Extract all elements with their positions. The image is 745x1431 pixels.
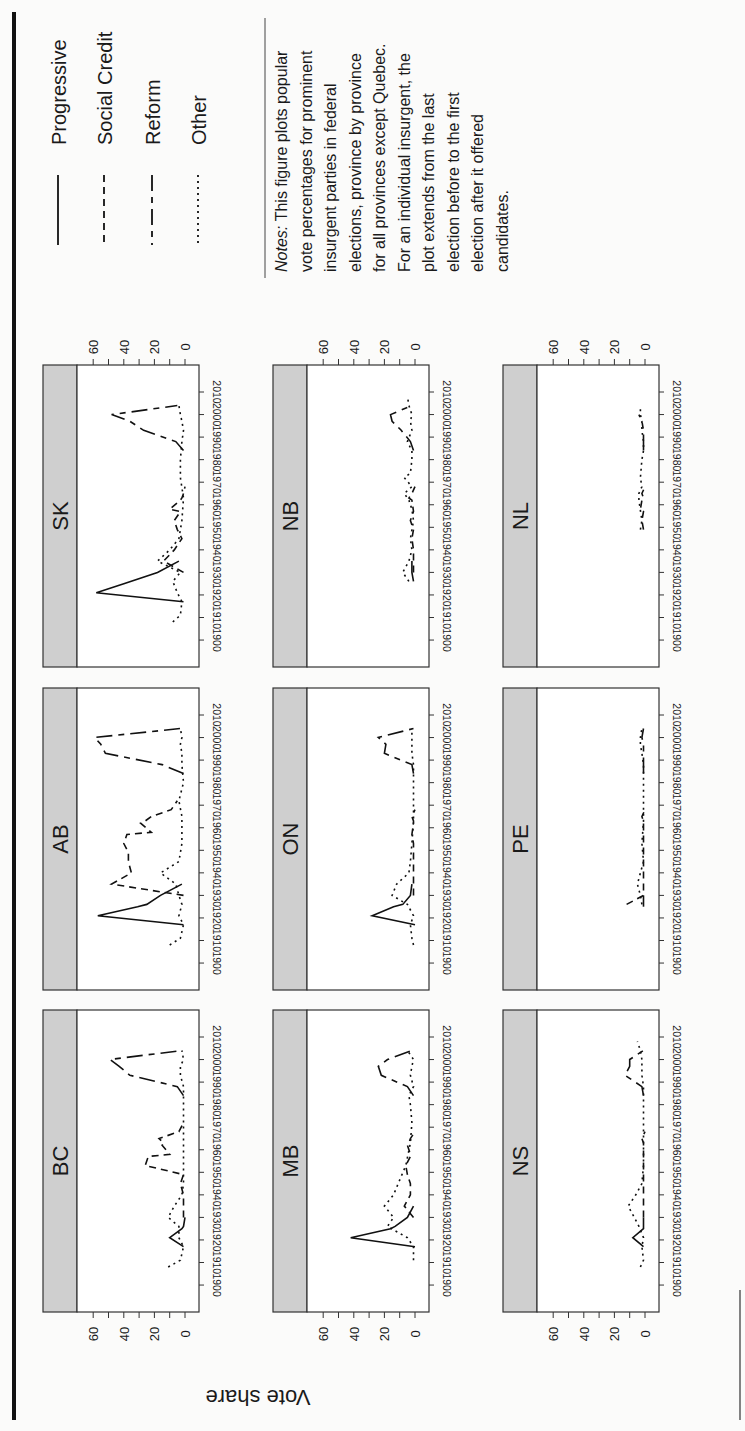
x-tick-label: 1920 [441,906,453,930]
plot-area [307,365,429,667]
x-tick-label: 1960 [211,1138,223,1162]
x-tick-label: 1980 [671,771,683,795]
x-tick-label: 1980 [671,1093,683,1117]
x-tick-label: 1900 [441,628,453,652]
x-tick-label: 1950 [671,1161,683,1185]
x-tick-label: 1990 [441,1070,453,1094]
x-tick-label: 1930 [671,1206,683,1230]
x-tick-label: 1930 [671,561,683,585]
x-tick-label: 1980 [441,771,453,795]
x-tick-label: 1980 [671,448,683,472]
x-tick-label: 1920 [211,1228,223,1252]
notes-line: for all provinces except Quebec. [371,43,388,272]
plot-area [307,1010,429,1312]
x-tick-label: 1980 [441,448,453,472]
legend-label: Other [188,95,210,145]
x-tick-label: 1970 [211,1116,223,1140]
y-tick-label: 20 [607,1327,622,1341]
x-tick-label: 1900 [671,951,683,975]
x-tick-label: 1950 [671,516,683,540]
x-tick-label: 2010 [671,1025,683,1049]
rotated-figure: SK19001910192019301940195019601970198019… [0,0,745,1431]
y-tick-label: 40 [577,340,592,354]
x-tick-label: 1930 [441,561,453,585]
panel-bc: BC19001910192019301940195019601970198019… [43,1010,223,1341]
x-tick-label: 1970 [211,471,223,495]
y-tick-label: 0 [408,343,423,350]
x-tick-label: 1900 [441,951,453,975]
x-tick-label: 1990 [671,748,683,772]
x-tick-label: 2000 [211,726,223,750]
x-tick-label: 1980 [211,448,223,472]
x-tick-label: 1990 [441,748,453,772]
notes-line: candidates. [494,190,511,272]
y-tick-label: 60 [546,340,561,354]
y-tick-label: 20 [377,340,392,354]
x-tick-label: 1900 [671,628,683,652]
x-tick-label: 1940 [441,861,453,885]
x-tick-label: 1910 [441,929,453,953]
legend-label: Progressive [48,39,70,145]
x-tick-label: 1930 [211,1206,223,1230]
y-tick-label: 60 [546,1327,561,1341]
y-tick-label: 40 [117,1327,132,1341]
x-tick-label: 1900 [441,1273,453,1297]
y-tick-label: 40 [347,340,362,354]
x-tick-label: 1930 [211,561,223,585]
y-tick-label: 40 [347,1327,362,1341]
x-tick-label: 2010 [211,1025,223,1049]
x-tick-label: 1900 [211,628,223,652]
x-tick-label: 1960 [671,1138,683,1162]
left-border-bar [12,12,16,1420]
x-tick-label: 2010 [441,1025,453,1049]
x-tick-label: 1980 [211,1093,223,1117]
x-tick-label: 2000 [211,403,223,427]
x-tick-label: 1960 [671,493,683,517]
x-tick-label: 1910 [211,929,223,953]
notes-line: vote percentages for prominent [298,50,315,272]
y-tick-label: 0 [178,1330,193,1337]
x-tick-label: 2000 [441,403,453,427]
x-tick-label: 1990 [211,1070,223,1094]
x-tick-label: 2010 [671,703,683,727]
notes-line: For an individual insurgent, the [396,53,413,272]
x-tick-label: 1970 [441,1116,453,1140]
x-tick-label: 2000 [211,1048,223,1072]
x-tick-label: 2000 [671,726,683,750]
y-tick-label: 60 [86,1327,101,1341]
x-tick-label: 1970 [211,794,223,818]
x-tick-label: 1920 [211,906,223,930]
x-tick-label: 1940 [441,538,453,562]
x-tick-label: 1960 [441,493,453,517]
x-tick-label: 1990 [441,425,453,449]
x-tick-label: 1910 [211,1251,223,1275]
legend-item-progressive: Progressive [48,39,70,245]
x-tick-label: 1950 [441,1161,453,1185]
x-tick-label: 1920 [211,583,223,607]
x-tick-label: 1910 [671,1251,683,1275]
notes-block: Notes: This figure plots popularvote per… [265,18,511,278]
faceted-line-chart: SK19001910192019301940195019601970198019… [0,0,745,1431]
panel-sk: SK19001910192019301940195019601970198019… [43,340,223,667]
x-tick-label: 1990 [211,425,223,449]
panel-nl: NL19001910192019301940195019601970198019… [503,340,683,667]
panel-title: NB [278,501,303,532]
x-tick-label: 1970 [671,794,683,818]
x-tick-label: 2010 [441,703,453,727]
x-tick-label: 1990 [211,748,223,772]
y-tick-label: 0 [638,343,653,350]
x-tick-label: 1950 [211,516,223,540]
x-tick-label: 2010 [671,380,683,404]
x-tick-label: 1970 [671,1116,683,1140]
x-tick-label: 1940 [211,861,223,885]
x-tick-label: 1930 [671,884,683,908]
notes-line: election after it offered [469,114,486,272]
x-tick-label: 1990 [671,1070,683,1094]
x-tick-label: 1940 [671,538,683,562]
panel-on: ON19001910192019301940195019601970198019… [273,688,453,990]
x-tick-label: 1960 [211,493,223,517]
legend-label: Social Credit [94,31,116,145]
x-tick-label: 1970 [441,794,453,818]
x-tick-label: 1920 [671,583,683,607]
x-tick-label: 1960 [441,816,453,840]
